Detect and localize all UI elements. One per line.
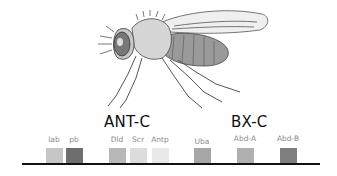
thorax-icon bbox=[132, 10, 171, 59]
fruit-fly-illustration bbox=[92, 0, 272, 112]
gene-label-scr: Scr bbox=[132, 135, 144, 144]
gene-box-uba bbox=[194, 148, 211, 163]
cluster-title-ant-c: ANT-C bbox=[104, 113, 150, 131]
gene-box-dld bbox=[109, 148, 126, 163]
gene-box-abd-a bbox=[237, 148, 254, 163]
gene-label-abd-a: Abd-A bbox=[234, 134, 256, 143]
cluster-title-bx-c: BX-C bbox=[231, 113, 268, 131]
wing-icon bbox=[162, 11, 268, 34]
gene-box-scr bbox=[130, 148, 147, 163]
abdomen-icon bbox=[164, 33, 228, 66]
gene-label-lab: lab bbox=[48, 135, 59, 144]
gene-label-uba: Uba bbox=[195, 137, 210, 146]
gene-box-lab bbox=[46, 148, 63, 163]
gene-label-dld: Dld bbox=[111, 135, 124, 144]
gene-label-abd-b: Abd-B bbox=[277, 134, 299, 143]
chromosome-line bbox=[22, 163, 320, 165]
gene-label-antp: Antp bbox=[151, 135, 169, 144]
gene-box-abd-b bbox=[280, 148, 297, 163]
gene-label-pb: pb bbox=[69, 135, 79, 144]
gene-box-antp bbox=[152, 148, 169, 163]
legs-icon bbox=[108, 56, 240, 108]
gene-box-pb bbox=[66, 148, 83, 163]
head-icon bbox=[98, 26, 134, 59]
